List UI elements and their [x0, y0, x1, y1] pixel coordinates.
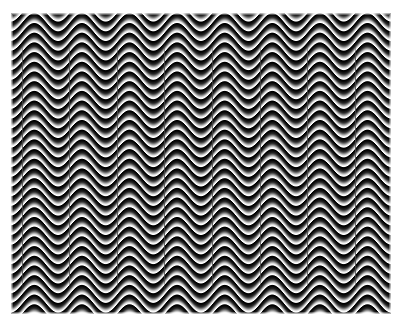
op-art-wave-pattern-canvas	[0, 0, 411, 336]
